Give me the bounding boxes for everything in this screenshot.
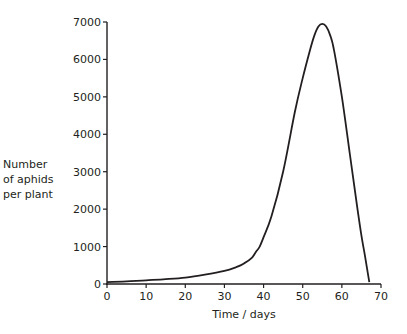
aphid-population-curve	[107, 24, 369, 282]
y-tick-label: 5000	[73, 91, 101, 104]
y-axis-title-line-2: of aphids	[3, 172, 73, 187]
x-axis-title: Time / days	[211, 308, 276, 321]
y-tick-label: 4000	[73, 128, 101, 141]
axes	[106, 22, 381, 285]
y-tick-label: 7000	[73, 16, 101, 29]
y-axis-ticks: 01000200030004000500060007000	[73, 16, 107, 291]
y-axis-title-line-3: per plant	[3, 187, 73, 202]
y-axis-title-line-1: Number	[3, 157, 73, 172]
y-tick-label: 1000	[73, 241, 101, 254]
y-tick-label: 6000	[73, 53, 101, 66]
y-tick-label: 2000	[73, 203, 101, 216]
y-axis-title: Number of aphids per plant	[3, 157, 73, 202]
x-tick-label: 10	[139, 290, 153, 303]
x-tick-label: 30	[217, 290, 231, 303]
x-tick-label: 0	[104, 290, 111, 303]
x-tick-label: 40	[257, 290, 271, 303]
x-tick-label: 20	[178, 290, 192, 303]
x-tick-label: 60	[335, 290, 349, 303]
x-tick-label: 70	[374, 290, 388, 303]
y-tick-label: 0	[94, 278, 101, 291]
x-axis-ticks: 010203040506070	[104, 284, 389, 303]
x-tick-label: 50	[296, 290, 310, 303]
y-tick-label: 3000	[73, 166, 101, 179]
